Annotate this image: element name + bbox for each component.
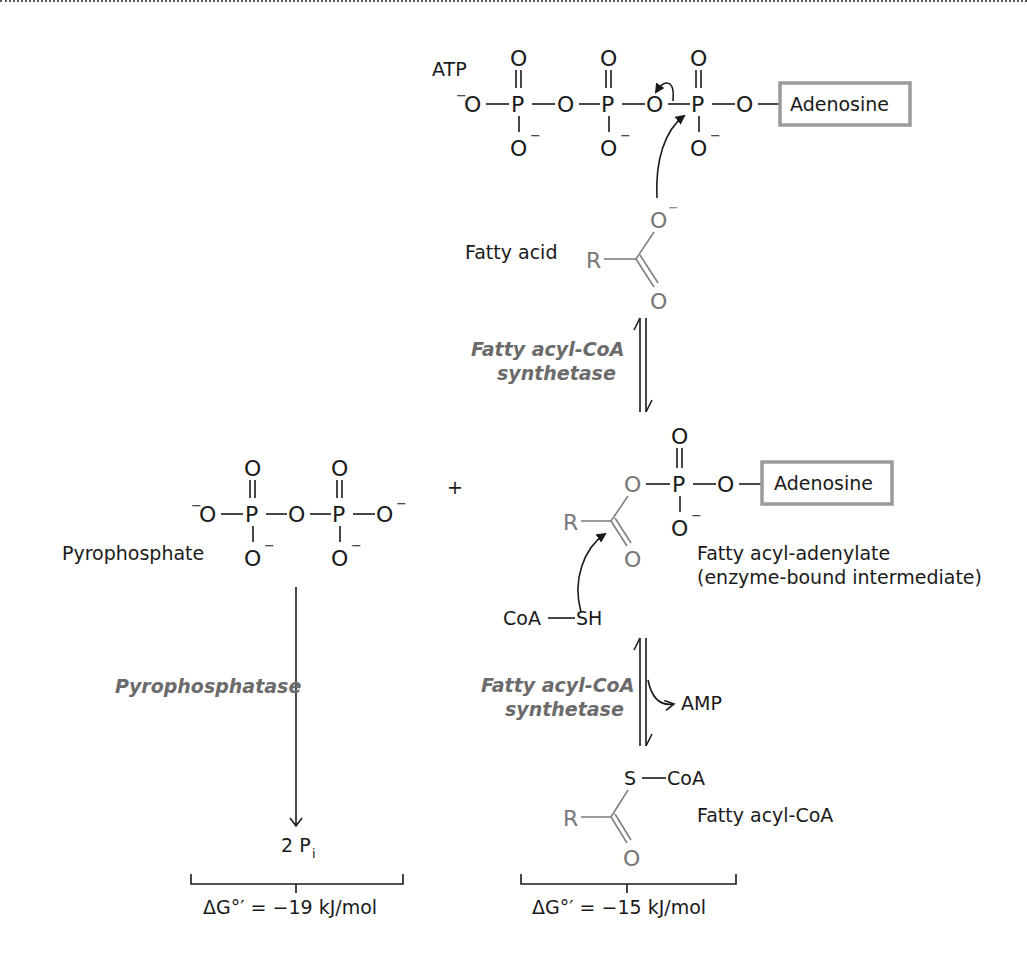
atom-p: P	[511, 92, 524, 117]
atom-o: O	[244, 456, 261, 481]
atom-o: O	[199, 502, 216, 527]
adenylate-label-line2: (enzyme-bound intermediate)	[697, 566, 982, 588]
atp-label: ATP	[432, 58, 467, 80]
r-group: R	[563, 510, 578, 535]
fatty-acyl-coa-label: Fatty acyl-CoA	[697, 804, 833, 826]
delta-g-unit: kJ/mol	[642, 896, 706, 918]
energetics-left: ΔG°′ = −19 kJ/mol	[191, 874, 403, 918]
enzyme-step2-line1: Fatty acyl-CoA	[481, 674, 634, 696]
charge: −	[351, 538, 362, 553]
sh-text: SH	[576, 607, 602, 629]
atom-o: O	[671, 516, 688, 541]
enzyme-step2-line2: synthetase	[505, 698, 624, 720]
atom-o: O	[736, 92, 753, 117]
atom-o: O	[671, 424, 688, 449]
atom-o: O	[624, 472, 641, 497]
plus-sign: +	[447, 476, 463, 498]
adenylate-label-line1: Fatty acyl-adenylate	[697, 542, 890, 564]
phosphate-subscript: i	[312, 846, 316, 861]
adenosine-label-2: Adenosine	[774, 472, 873, 494]
amp-release-arrow-icon	[648, 680, 674, 704]
charge: −	[620, 128, 631, 143]
delta-g-value: −15	[602, 896, 642, 918]
atom-o: O	[510, 46, 527, 71]
pyrophosphatase-label: Pyrophosphatase	[115, 675, 301, 697]
amp-label: AMP	[681, 692, 722, 714]
atom-o: O	[331, 546, 348, 571]
atom-o: O	[288, 502, 305, 527]
atom-o: O	[624, 547, 641, 572]
coa-text: CoA	[503, 607, 541, 629]
charge: −	[530, 128, 541, 143]
delta-g-prefix: ΔG°′ =	[203, 896, 273, 918]
reaction-diagram: ATP − O P O P O P O O O O O − O − O −	[0, 0, 1027, 979]
fatty-acyl-coa-molecule: S CoA R O Fatty acyl-CoA	[563, 767, 833, 871]
charge: −	[396, 496, 407, 511]
delta-g-right: ΔG°′ = −15 kJ/mol	[532, 896, 706, 918]
atom-o: O	[557, 92, 574, 117]
adenosine-label: Adenosine	[790, 93, 889, 115]
charge: −	[691, 508, 702, 523]
atom-o: O	[646, 92, 663, 117]
atom-o: O	[244, 546, 261, 571]
atom-o: O	[464, 92, 481, 117]
equilibrium-arrow-step1: Fatty acyl-CoA synthetase	[471, 318, 652, 412]
delta-g-prefix: ΔG°′ =	[532, 896, 602, 918]
delta-g-left: ΔG°′ = −19 kJ/mol	[203, 896, 377, 918]
thiol-attack-arrow-icon	[578, 534, 605, 612]
energetics-right: ΔG°′ = −15 kJ/mol	[521, 874, 736, 918]
atom-o: O	[331, 456, 348, 481]
atom-o: O	[623, 846, 640, 871]
coa-sh-molecule: CoA SH	[503, 607, 602, 629]
atom-o: O	[690, 136, 707, 161]
atom-o: O	[690, 46, 707, 71]
enzyme-step1-line1: Fatty acyl-CoA	[471, 338, 624, 360]
charge: −	[264, 538, 275, 553]
nucleophilic-attack-arrow-icon	[657, 116, 684, 198]
charge: −	[668, 200, 679, 215]
r-group: R	[586, 248, 601, 273]
atom-o: O	[600, 46, 617, 71]
phosphate-product: 2 P	[281, 834, 311, 856]
atp-molecule: ATP − O P O P O P O O O O O − O − O −	[432, 46, 910, 198]
enzyme-step1-line2: synthetase	[497, 362, 616, 384]
delta-g-value: −19	[273, 896, 313, 918]
equilibrium-arrow-step2: AMP Fatty acyl-CoA synthetase	[481, 638, 722, 746]
fatty-acid-molecule: Fatty acid R O − O	[465, 200, 679, 314]
atom-p: P	[691, 92, 704, 117]
coa-text-2: CoA	[667, 767, 705, 789]
pyrophosphate-molecule: Pyrophosphate − O P O P O − O O O − O −	[62, 456, 407, 571]
pyrophosphatase-step: Pyrophosphatase 2 P i	[115, 587, 316, 861]
atom-p: P	[245, 502, 258, 527]
pyrophosphate-label: Pyrophosphate	[62, 542, 204, 564]
charge: −	[710, 128, 721, 143]
fatty-acyl-adenylate-molecule: R O O P O O O − Adenosine Fatty acyl-ade…	[563, 424, 982, 612]
atom-o: O	[717, 472, 734, 497]
delta-g-unit: kJ/mol	[313, 896, 377, 918]
atom-o: O	[376, 502, 393, 527]
r-group: R	[563, 806, 578, 831]
atom-s: S	[624, 767, 636, 789]
atom-p: P	[332, 502, 345, 527]
atom-o: O	[510, 136, 527, 161]
atom-p: P	[601, 92, 614, 117]
fatty-acid-label: Fatty acid	[465, 241, 557, 263]
atom-o: O	[650, 289, 667, 314]
atom-p: P	[672, 472, 685, 497]
atom-o: O	[600, 136, 617, 161]
atom-o: O	[650, 208, 667, 233]
